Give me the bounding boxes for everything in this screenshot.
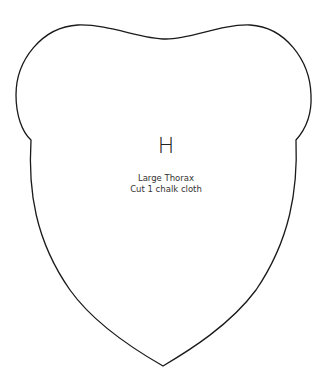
piece-instruction: Cut 1 chalk cloth <box>0 184 332 194</box>
piece-name: Large Thorax <box>0 173 332 183</box>
pattern-outline <box>0 0 332 389</box>
piece-letter: H <box>0 133 332 158</box>
